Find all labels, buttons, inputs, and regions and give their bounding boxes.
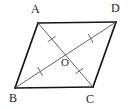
edge-DC <box>93 22 116 87</box>
tick-OC-icon <box>76 69 83 74</box>
edge-BA <box>15 23 38 88</box>
vertex-label-b: B <box>9 92 17 104</box>
edge-AD <box>38 22 116 23</box>
vertex-label-d: D <box>111 2 120 14</box>
diagonal-BD <box>15 22 116 88</box>
vertex-label-c: C <box>86 93 94 105</box>
diagonals <box>15 22 116 88</box>
geometry-figure: A D B C O <box>0 0 135 109</box>
geometry-canvas <box>0 0 135 109</box>
vertex-label-a: A <box>31 3 40 15</box>
tick-AO-icon <box>48 37 55 42</box>
intersection-label-o: O <box>61 57 69 68</box>
tick-BO-icon <box>38 68 42 76</box>
edge-CB <box>15 87 93 88</box>
tick-OD-icon <box>89 35 93 43</box>
